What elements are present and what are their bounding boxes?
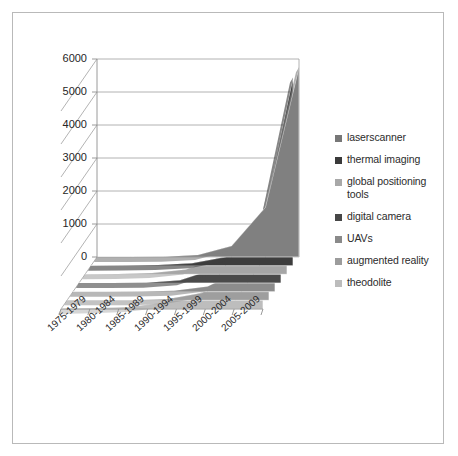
chart-legend: laserscannerthermal imagingglobal positi… <box>335 131 458 298</box>
y-axis-tick-label: 2000 <box>43 184 87 196</box>
chart-frame-border: 0100020003000400050006000 1975-19791980-… <box>12 12 444 444</box>
y-axis-tick-label: 1000 <box>43 217 87 229</box>
chart-figure: 0100020003000400050006000 1975-19791980-… <box>0 0 458 456</box>
legend-item-label: augmented reality <box>347 254 429 267</box>
legend-item-label: digital camera <box>347 210 411 223</box>
legend-item[interactable]: thermal imaging <box>335 153 458 166</box>
y-axis-tick-label: 6000 <box>43 52 87 64</box>
legend-swatch-icon <box>335 280 342 287</box>
x-tick-7 <box>261 309 263 315</box>
y-axis-tick-label: 3000 <box>43 151 87 163</box>
legend-item[interactable]: theodolite <box>335 276 458 289</box>
series-area-laserscanner <box>97 67 299 257</box>
legend-item-label: thermal imaging <box>347 153 420 166</box>
y-axis-tick-label: 5000 <box>43 85 87 97</box>
y-axis-tick-label: 0 <box>43 250 87 262</box>
legend-item[interactable]: UAVs <box>335 232 458 245</box>
legend-item-label: global positioning tools <box>347 175 426 200</box>
legend-item[interactable]: augmented reality <box>335 254 458 267</box>
legend-swatch-icon <box>335 179 342 186</box>
legend-swatch-icon <box>335 135 342 142</box>
legend-swatch-icon <box>335 157 342 164</box>
legend-swatch-icon <box>335 258 342 265</box>
legend-item[interactable]: digital camera <box>335 210 458 223</box>
legend-item-label: theodolite <box>347 276 392 289</box>
legend-swatch-icon <box>335 214 342 221</box>
y-axis-tick-label: 4000 <box>43 118 87 130</box>
legend-item[interactable]: laserscanner <box>335 131 458 144</box>
legend-item-label: laserscanner <box>347 131 406 144</box>
legend-item[interactable]: global positioning tools <box>335 175 458 200</box>
legend-swatch-icon <box>335 236 342 243</box>
legend-item-label: UAVs <box>347 232 373 245</box>
